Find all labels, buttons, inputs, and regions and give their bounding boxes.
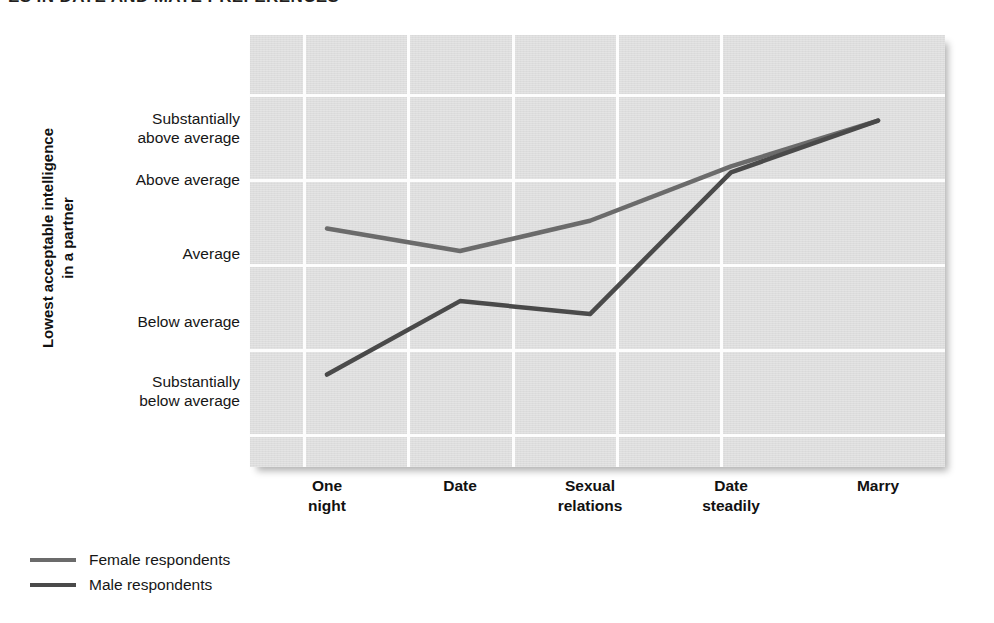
y-tick-line-1: Above average [88,170,240,189]
x-tick-line-1: One [252,476,402,496]
y-tick-line-1: Average [88,244,240,263]
chart-legend: Female respondents Male respondents [30,547,230,597]
y-tick-line-2: above average [88,128,240,147]
x-tick-sexual-relations: Sexual relations [515,476,665,516]
y-tick-line-1: Below average [88,312,240,331]
legend-item-female-respondents: Female respondents [30,547,230,572]
legend-line-swatch-male-icon [30,583,76,587]
x-tick-marry: Marry [803,476,953,496]
series-line-male-respondents [327,121,878,375]
y-axis-title-line-2: in a partner [58,38,78,438]
x-axis-tick-labels: One night Date Sexual relations Date ste… [250,476,945,524]
legend-label-female: Female respondents [89,551,230,568]
series-line-female-respondents [327,121,878,251]
x-tick-line-1: Marry [803,476,953,496]
y-tick-line-2: below average [88,391,240,410]
x-tick-line-2: night [252,496,402,516]
chart-plot-area [250,35,945,467]
x-tick-line-2: steadily [656,496,806,516]
x-tick-date: Date [385,476,535,496]
x-tick-line-1: Date [385,476,535,496]
y-tick-above-average: Above average [88,170,240,189]
x-tick-line-1: Date [656,476,806,496]
chart-series-layer [250,35,945,467]
legend-line-swatch-female-icon [30,558,76,562]
legend-label-male: Male respondents [89,576,212,593]
x-tick-line-2: relations [515,496,665,516]
y-tick-substantially-above-average: Substantially above average [88,109,240,147]
y-tick-average: Average [88,244,240,263]
y-tick-line-1: Substantially [88,109,240,128]
y-tick-substantially-below-average: Substantially below average [88,372,240,410]
y-axis-title-line-1: Lowest acceptable intelligence [38,38,58,438]
legend-item-male-respondents: Male respondents [30,572,230,597]
y-axis-tick-labels: Substantially above average Above averag… [88,35,240,467]
y-axis-title: Lowest acceptable intelligence in a part… [38,38,82,438]
y-tick-line-1: Substantially [88,372,240,391]
x-tick-date-steadily: Date steadily [656,476,806,516]
page-title: ES IN DATE AND MATE PREFERENCES [8,0,339,2]
x-tick-line-1: Sexual [515,476,665,496]
chart-plot-wrapper [250,35,945,467]
x-tick-one-night: One night [252,476,402,516]
y-tick-below-average: Below average [88,312,240,331]
